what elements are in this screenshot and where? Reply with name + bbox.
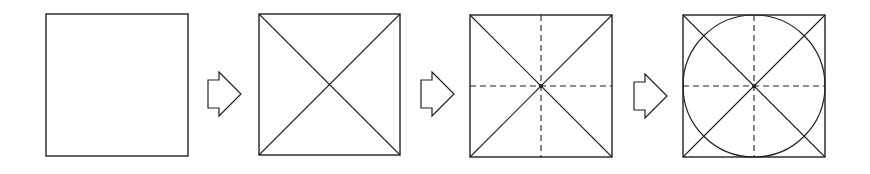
square-outline: [46, 14, 188, 156]
right-arrow-icon: [421, 72, 454, 116]
right-arrow-icon: [208, 72, 241, 116]
center-point: [539, 84, 543, 88]
center-point: [752, 84, 756, 88]
step-figure-3: [470, 15, 612, 157]
step-figure-1: [46, 14, 188, 156]
step-figure-4: [683, 15, 825, 157]
right-arrow-icon: [634, 74, 667, 118]
step-figure-2: [259, 14, 400, 155]
construction-diagram: Square to inscribed circle construction …: [0, 0, 870, 174]
